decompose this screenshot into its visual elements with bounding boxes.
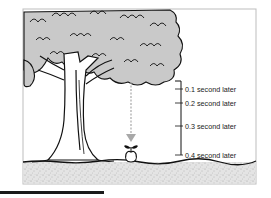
time-label-2: 0.3 second later (185, 122, 237, 131)
time-label-1: 0.2 second later (185, 99, 237, 108)
ground (24, 162, 256, 184)
caption-rule (0, 191, 104, 194)
time-label-3: 0.4 second later (185, 151, 237, 160)
time-label-0: 0.1 second later (185, 85, 237, 94)
falling-apple-diagram: 0.1 second later 0.2 second later 0.3 se… (0, 0, 271, 198)
apple-icon (124, 145, 138, 162)
